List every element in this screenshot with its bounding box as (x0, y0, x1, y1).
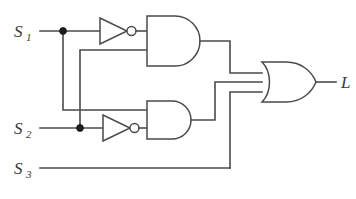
not-gate-1-bubble-icon (127, 27, 136, 36)
input-label-s1: S (14, 22, 23, 41)
wire-and-bottom-output-to-or (191, 82, 262, 120)
wire-s2-branch-to-and-top (80, 50, 147, 128)
and-gate-bottom-body (147, 101, 191, 139)
logic-circuit-diagram: S 1 S 2 S 3 L (0, 0, 356, 199)
input-label-s2: S (14, 119, 23, 138)
junction-dot-s2 (77, 125, 84, 132)
not-gate-1-triangle (100, 18, 127, 44)
circuit-canvas: S 1 S 2 S 3 L (0, 0, 356, 199)
or-gate-body (262, 62, 316, 102)
input-label-s3-subscript: 3 (25, 168, 32, 180)
input-label-s3: S (14, 159, 23, 178)
not-gate-2-bubble-icon (130, 124, 139, 133)
output-label-l: L (340, 73, 350, 92)
and-gate-top-body (147, 16, 200, 66)
input-label-s1-subscript: 1 (26, 31, 32, 43)
wire-s3-riser-to-or (230, 92, 262, 168)
not-gate-2-triangle (103, 115, 130, 141)
input-label-s2-subscript: 2 (26, 128, 32, 140)
wire-and-top-output-to-or (200, 41, 262, 73)
wire-s1-branch-to-and-bottom (63, 31, 147, 110)
junction-dot-s1 (60, 28, 67, 35)
